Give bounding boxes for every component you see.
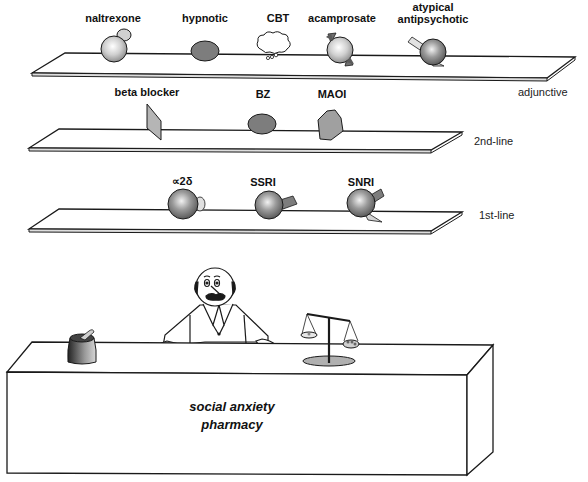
shelf-2nd-line: 2nd-line bbox=[29, 129, 513, 153]
label-ssri: SSRI bbox=[250, 176, 276, 188]
label-naltrexone: naltrexone bbox=[85, 12, 141, 24]
tier-label-adjunctive: adjunctive bbox=[518, 86, 568, 98]
label-snri: SNRI bbox=[348, 176, 374, 188]
label-bz: BZ bbox=[256, 88, 271, 100]
label-antipsychotic: antipsychotic bbox=[398, 13, 469, 25]
desk-label-line2: pharmacy bbox=[200, 417, 263, 432]
pharmacy-diagram: adjunctive naltrexone hypnotic CBT acamp… bbox=[0, 0, 588, 482]
label-hypnotic: hypnotic bbox=[182, 12, 228, 24]
desk-label-line1: social anxiety bbox=[189, 399, 275, 414]
tier-label-2nd-line: 2nd-line bbox=[474, 135, 513, 147]
hypnotic-icon bbox=[191, 41, 219, 61]
label-cbt: CBT bbox=[267, 12, 290, 24]
mortar-and-pestle-icon bbox=[68, 330, 97, 364]
balance-scale-icon bbox=[301, 314, 359, 366]
bz-icon bbox=[248, 114, 276, 134]
label-alpha2delta: ∝2δ bbox=[172, 175, 193, 187]
label-acamprosate: acamprosate bbox=[308, 12, 376, 24]
label-maoi: MAOI bbox=[318, 88, 347, 100]
pharmacist-figure bbox=[154, 268, 276, 350]
label-beta-blocker: beta blocker bbox=[115, 86, 181, 98]
tier-label-1st-line: 1st-line bbox=[479, 209, 514, 221]
label-atypical: atypical bbox=[413, 1, 454, 13]
